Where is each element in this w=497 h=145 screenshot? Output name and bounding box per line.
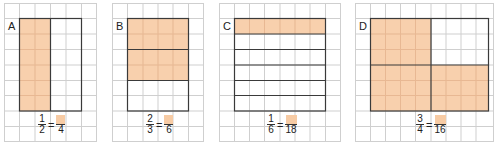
fraction-equation: 34 = 16 — [416, 114, 446, 135]
numerator: 3 — [416, 114, 424, 124]
equals-sign: = — [156, 119, 162, 131]
equivalent-denominator: 18 — [285, 125, 296, 135]
denominator: 4 — [416, 125, 424, 135]
shaded-region-bottom — [371, 65, 489, 111]
equals-sign: = — [48, 119, 54, 131]
panel-a: A 12 = 4 — [4, 3, 97, 142]
equivalent-denominator: 6 — [165, 125, 173, 135]
numerator: 1 — [267, 114, 275, 124]
panel-c: C 16 = 18 — [219, 3, 341, 142]
panel-label: A — [8, 20, 15, 32]
blank-box-icon — [435, 115, 446, 124]
numerator: 2 — [146, 114, 154, 124]
panel-label: B — [116, 20, 123, 32]
panel-label: C — [223, 20, 231, 32]
panel-label: D — [359, 20, 367, 32]
numerator: 1 — [38, 114, 46, 124]
blank-box-icon — [286, 115, 297, 124]
denominator: 2 — [38, 125, 46, 135]
equals-sign: = — [426, 119, 432, 131]
denominator: 6 — [267, 125, 275, 135]
blank-box-icon — [56, 115, 65, 124]
fraction-equation: 23 = 6 — [146, 114, 173, 135]
equals-sign: = — [277, 119, 283, 131]
equivalent-denominator: 4 — [57, 125, 65, 135]
panel-b: B 23 = 6 — [112, 3, 204, 142]
denominator: 3 — [146, 125, 154, 135]
blank-box-icon — [164, 115, 173, 124]
panel-d: D 34 = 16 — [355, 3, 494, 142]
fraction-equation: 12 = 4 — [38, 114, 65, 135]
equivalent-denominator: 16 — [434, 125, 445, 135]
fraction-equation: 16 = 18 — [267, 114, 297, 135]
